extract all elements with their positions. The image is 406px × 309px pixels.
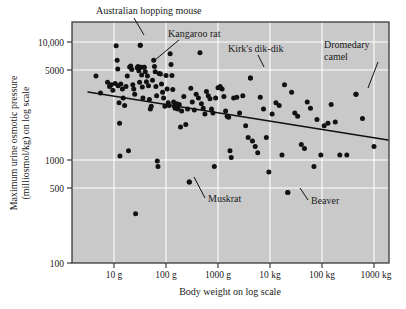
data-point [299,142,304,147]
data-point [110,88,115,93]
data-point [196,96,201,101]
data-point [360,116,365,121]
data-point [140,85,145,90]
data-point [117,121,122,126]
data-point [151,58,156,63]
urine-osmotic-pressure-scatter-figure: 10,000 5000 1000 500 100 10 g 100 g 1000… [0,0,406,309]
data-point [212,164,217,169]
data-point [181,94,186,99]
data-point [142,65,147,70]
data-point [179,109,184,114]
data-point [311,164,316,169]
annotation-beaver: Beaver [311,195,340,206]
data-point [150,78,155,83]
x-tick-label-1000g: 1000 g [205,270,231,280]
annotation-muskrat: Muskrat [208,193,242,204]
data-point [114,43,119,48]
data-point [325,121,330,126]
data-point [243,123,248,128]
data-point [261,107,266,112]
y-axis-title-line2: (milliosmol/kg) on log scale [20,86,32,200]
data-point [277,103,282,108]
x-axis-title: Body weight on log scale [179,286,281,297]
data-point [169,62,174,67]
data-point [221,94,226,99]
data-point [122,103,127,108]
data-point [270,112,275,117]
data-point [248,76,253,81]
y-tick-label-1000: 1000 [45,156,64,166]
data-point [353,92,358,97]
data-point [246,135,251,140]
data-point [183,122,188,127]
data-point [115,58,120,63]
data-point [266,170,271,175]
data-point [314,117,319,122]
data-point [155,164,160,169]
data-point [168,51,173,56]
data-point [154,93,159,98]
annotation-australian-hopping-mouse: Australian hopping mouse [96,5,202,16]
data-point [223,109,228,114]
y-tick-label-500: 500 [50,184,65,194]
data-point [240,93,245,98]
x-tick-label-100g: 100 g [155,270,177,280]
data-point [337,153,342,158]
scatter-plot-canvas: 10,000 5000 1000 500 100 10 g 100 g 1000… [0,0,406,309]
data-point [155,159,160,164]
data-point [237,111,242,116]
data-point [289,90,294,95]
y-tick-label-5000: 5000 [45,66,64,76]
data-point [295,114,300,119]
data-point [93,74,98,79]
data-point [117,100,122,105]
data-point [123,84,128,89]
data-point [333,119,338,124]
data-point [118,82,123,87]
data-point [197,50,202,55]
y-axis-title-line1: Maximum urine osmotic pressure [8,75,19,210]
data-point [329,102,334,107]
data-point [372,144,377,149]
data-point [145,74,150,79]
data-point [227,148,232,153]
y-tick-label-100: 100 [50,259,65,269]
data-point [190,100,195,105]
data-point [178,125,183,130]
data-point [125,74,130,79]
annotation-kangaroo-rat: Kangaroo rat [168,28,221,39]
data-point [234,95,239,100]
data-point [137,80,142,85]
data-point [285,190,290,195]
y-tick-label-10000: 10,000 [38,38,64,48]
data-point [160,90,165,95]
data-point [126,148,131,153]
data-point [305,100,310,105]
data-point [152,64,157,69]
x-tick-label-10g: 10 g [106,270,123,280]
data-point [169,73,174,78]
data-point [129,67,134,72]
x-axis-tickmarks [114,263,374,268]
data-point [132,92,137,97]
y-axis-tickmarks [67,42,72,263]
data-point [164,73,169,78]
x-tick-label-100kg: 100 kg [309,270,335,280]
data-point [207,96,212,101]
data-point [165,86,170,91]
data-point [159,82,164,87]
data-point [158,72,163,77]
data-point [282,82,287,87]
data-point [250,138,255,143]
data-point [170,87,175,92]
data-point [213,96,218,101]
data-point [199,101,204,106]
x-axis-tick-labels: 10 g 100 g 1000 g 10 kg 100 kg 1000 kg [106,270,392,280]
y-axis-tick-labels: 10,000 5000 1000 500 100 [38,38,64,269]
data-point [188,86,193,91]
x-tick-label-10kg: 10 kg [259,270,281,280]
data-point [279,153,284,158]
data-point [255,150,260,155]
data-point [220,86,225,91]
data-point [146,83,151,88]
